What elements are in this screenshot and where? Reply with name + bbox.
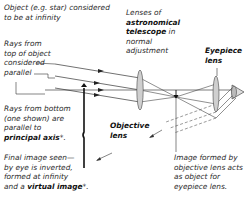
ray-arrowheads: [94, 69, 104, 97]
principal-axis-term: principal axis: [4, 133, 60, 142]
objective-label: Objective lens: [110, 121, 149, 140]
rays-bottom-line3: parallel to: [4, 123, 71, 133]
eyepiece-label: Eyepiece lens: [205, 46, 242, 65]
image-line2: objective lens acts: [174, 163, 243, 173]
objective-lens: [137, 70, 143, 110]
final-line1: Final image seen—: [4, 153, 89, 163]
rays-top-label: Rays from top of object considered paral…: [4, 39, 51, 77]
lenses-line3-suffix: in: [166, 27, 175, 36]
lenses-line4: normal: [126, 37, 180, 47]
telescope-term: telescope: [126, 27, 166, 36]
rays-bottom-label: Rays from bottom (one shown) are paralle…: [4, 104, 71, 142]
astronomical-term: astronomical: [126, 18, 180, 27]
final-line4-suffix: *.: [83, 182, 89, 191]
object-note: Object (e.g. star) considered to be at i…: [4, 3, 110, 22]
image-label: Image formed by objective lens acts as o…: [174, 153, 243, 191]
converging-rays: [140, 78, 216, 118]
final-line4-prefix: and a: [4, 182, 27, 191]
rays-top-line2: top of object: [4, 49, 51, 59]
rays-top-line1: Rays from: [4, 39, 51, 49]
lenses-label: Lenses of astronomical telescope in norm…: [126, 8, 180, 56]
lenses-line5: adjustment: [126, 46, 180, 56]
objective-line2: lens: [110, 131, 149, 141]
lenses-line1: Lenses of: [126, 8, 180, 18]
rays-bottom-line1: Rays from bottom: [4, 104, 71, 114]
rays-bottom-line2: (one shown) are: [4, 114, 71, 124]
image-line1: Image formed by: [174, 153, 243, 163]
final-line3: formed at infinity: [4, 172, 89, 182]
rays-top-line4: parallel: [4, 68, 51, 78]
eyepiece-lens: [213, 76, 219, 112]
image-line3: as object for: [174, 172, 243, 182]
virtual-image-term: virtual image: [27, 182, 82, 191]
image-line4: eyepiece lens.: [174, 182, 243, 192]
virtual-ray-extensions: [166, 104, 216, 133]
objective-line1: Objective: [110, 121, 149, 131]
eyepiece-line1: Eyepiece: [205, 46, 242, 56]
rays-bottom-suffix: *.: [60, 133, 66, 142]
eyepiece-line2: lens: [205, 56, 242, 66]
object-note-line2: to be at infinity: [4, 13, 110, 23]
object-note-line1: Object (e.g. star) considered: [4, 3, 110, 13]
eye-icon: [232, 85, 245, 99]
final-line2: by eye is inverted,: [4, 163, 89, 173]
rays-top-line3: considered: [4, 58, 51, 68]
final-image-label: Final image seen— by eye is inverted, fo…: [4, 153, 89, 191]
